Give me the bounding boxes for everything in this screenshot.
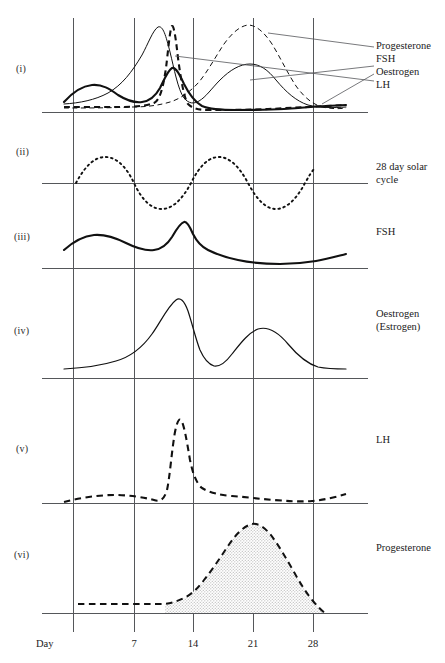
curve-lh-panel-i <box>64 26 346 110</box>
panel-caption-progesterone: Progesterone <box>376 541 431 554</box>
x-axis-title: Day <box>36 638 54 649</box>
panel-caption-solar-cycle: 28 day solar cycle <box>376 160 427 186</box>
panel-v-curves <box>64 420 346 503</box>
legend-leader-lines <box>175 33 374 104</box>
panel-caption-oestrogen: Oestrogen (Estrogen) <box>376 307 420 333</box>
panel-label-ii: (ii) <box>16 146 29 157</box>
legend-label-lh: LH <box>376 79 390 92</box>
hormone-cycle-figure: (i) (ii) (iii) (iv) (v) (vi) 28 day sola… <box>0 0 445 663</box>
progesterone-fill-area <box>165 524 325 613</box>
x-tick-label-21: 21 <box>241 638 265 649</box>
panel-caption-lh: LH <box>376 433 390 446</box>
panel-label-i: (i) <box>16 63 26 74</box>
panel-vi-curves <box>78 524 325 613</box>
legend-label-progesterone: Progesterone <box>376 40 431 53</box>
curve-oestrogen-panel-i <box>64 27 346 108</box>
panel-label-iv: (iv) <box>14 325 29 336</box>
curve-lh-panel-v <box>64 420 346 503</box>
panel-baselines <box>42 113 368 614</box>
leader-line-lh <box>322 74 374 104</box>
panel-label-vi: (vi) <box>14 549 29 560</box>
legend-label-oestrogen: Oestrogen <box>376 66 419 79</box>
panel-iv-curves <box>64 299 346 369</box>
panel-label-iii: (iii) <box>14 231 30 242</box>
panel-label-v: (v) <box>16 443 28 454</box>
curve-fsh-panel-iii <box>64 222 346 264</box>
leader-line-progesterone <box>268 33 374 47</box>
panel-iii-curves <box>64 222 346 264</box>
x-tick-label-28: 28 <box>301 638 325 649</box>
panel-caption-fsh: FSH <box>376 225 395 238</box>
x-tick-label-14: 14 <box>181 638 205 649</box>
x-tick-label-7: 7 <box>122 638 146 649</box>
curve-oestrogen-panel-iv <box>64 299 346 369</box>
legend-label-fsh: FSH <box>376 53 395 66</box>
